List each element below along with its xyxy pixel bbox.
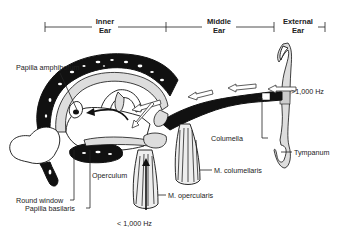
label-columella: Columella bbox=[211, 134, 243, 143]
label-m-columellaris: M. columellaris bbox=[214, 166, 262, 175]
ear-diagram: Inner Ear Middle Ear External Ear bbox=[0, 0, 340, 238]
section-scale: Inner Ear Middle Ear External Ear bbox=[45, 17, 325, 35]
label-papilla-amphibiorum: Papilla amphiborum bbox=[16, 63, 80, 72]
arrow-high-freq-2 bbox=[188, 90, 213, 100]
arrow-high-freq-1 bbox=[228, 84, 256, 92]
tympanum-structure bbox=[274, 43, 292, 168]
label-operculum: Operculum bbox=[92, 171, 127, 180]
label-tympanum: Tympanum bbox=[294, 148, 330, 157]
section-external-line2: Ear bbox=[292, 26, 304, 35]
section-inner-line1: Inner bbox=[96, 17, 115, 26]
label-m-opercularis: M. opercularis bbox=[168, 191, 214, 200]
label-papilla-basilaris: Papilla basilaris bbox=[25, 204, 75, 213]
label-low-freq: < 1,000 Hz bbox=[117, 219, 152, 228]
columella-structure bbox=[160, 92, 282, 130]
label-high-freq: >1,000 Hz bbox=[291, 87, 324, 96]
section-inner-line2: Ear bbox=[99, 26, 111, 35]
section-external-line1: External bbox=[283, 17, 313, 26]
section-middle-line1: Middle bbox=[207, 17, 231, 26]
section-middle-line2: Ear bbox=[213, 26, 225, 35]
